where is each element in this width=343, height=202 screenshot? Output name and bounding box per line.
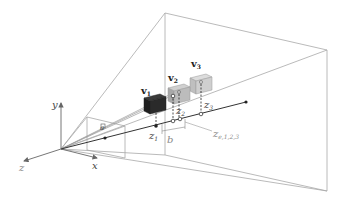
depth-point-z2a: [171, 119, 175, 123]
z3-label: z3: [203, 99, 213, 111]
depth-point-z1: [154, 124, 158, 128]
depth-point-v2a: [171, 94, 175, 98]
v2-label: v2: [167, 72, 178, 84]
z1-label: z1: [148, 130, 158, 142]
z-axis-label: z: [18, 162, 25, 173]
v1-label: v1: [140, 85, 151, 97]
stereo-projection-diagram: y z x: [0, 0, 343, 202]
z-axis: [24, 149, 61, 161]
ze-leader-line: [185, 122, 212, 131]
z2-label: z2: [175, 105, 185, 117]
v3-label: v3: [190, 58, 201, 70]
view-frustum: [61, 13, 327, 191]
near-plane-label: a: [100, 124, 104, 132]
cube-v1: [144, 94, 166, 114]
x-axis-label: x: [92, 160, 98, 171]
depth-point-z3: [199, 112, 203, 116]
near-point: [103, 136, 106, 139]
coordinate-axes: [24, 103, 97, 161]
far-point: [244, 100, 247, 103]
y-axis-label: y: [51, 99, 58, 110]
depth-point-z2b: [178, 117, 182, 121]
ze-label: ze,1,2,3: [212, 128, 239, 140]
baseline-label: b: [167, 134, 173, 145]
